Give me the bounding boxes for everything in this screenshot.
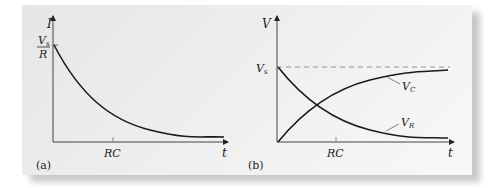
panel-a-vs-numerator: Vs: [38, 34, 50, 48]
panel-b-y-label: V: [262, 17, 272, 31]
panel-b-vr-decay-curve: [278, 67, 448, 138]
panel-a-r-denominator: R: [38, 48, 47, 61]
panel-b-vr-leader: [386, 124, 399, 131]
panel-a-rc-label: RC: [103, 147, 121, 160]
panel-b-vs-label: Vs: [256, 62, 268, 76]
panel-a-y-label: I: [46, 17, 52, 31]
panel-a-tag: (a): [36, 159, 51, 172]
panel-b-rc-label: RC: [326, 147, 344, 160]
panel-b-vr-label: VR: [401, 116, 415, 130]
panel-b-t-label: t: [448, 146, 453, 160]
panel-b-tag: (b): [248, 159, 264, 172]
panel-b-voltage-graph: V Vs VC VR RC t (b): [248, 16, 454, 172]
rc-circuit-diagram: I Vs R RC t (a) V Vs VC VR RC t (b): [0, 0, 496, 188]
panel-b-vc-label: VC: [402, 80, 416, 94]
panel-b-vc-charge-curve: [278, 70, 448, 142]
panel-a-current-decay-curve: [54, 45, 224, 137]
panel-a-t-label: t: [222, 146, 227, 160]
panel-b-vc-leader: [387, 77, 400, 84]
panel-a-current-graph: I Vs R RC t (a): [36, 16, 228, 172]
